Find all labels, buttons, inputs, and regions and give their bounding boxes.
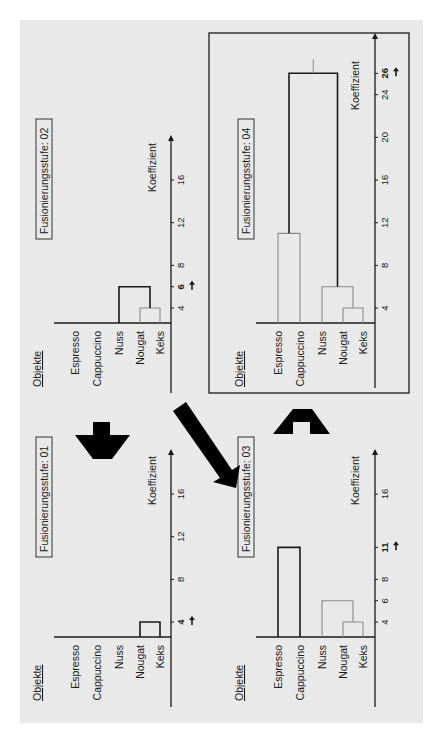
object-label: Nuss [316,645,328,669]
tick-label: 12 [175,531,186,542]
object-label: Cappuccino [91,645,103,701]
tick-label: 8 [175,263,186,268]
tick-label: 4 [175,619,186,625]
objects-header: Objekte [31,351,43,387]
tick-label: 26 [379,68,390,79]
object-label: Cappuccino [294,645,306,701]
object-label: Nougat [337,331,349,365]
object-label: Espresso [69,645,81,689]
step-title: Fusionierungsstufe: 01 [38,446,50,552]
tick-label: 11 [379,542,390,553]
object-label: Espresso [272,645,284,689]
step-title: Fusionierungsstufe: 03 [240,446,252,552]
object-label: Nuss [113,331,125,355]
tick-label: 8 [175,577,186,582]
tick-label: 12 [379,217,390,228]
tick-label: 16 [175,489,186,500]
object-label: Nuss [113,645,125,669]
object-label: Cappuccino [91,331,103,387]
object-label: Nuss [316,331,328,355]
tick-label: 24 [379,89,390,100]
object-label: Keks [154,331,166,354]
object-label: Keks [154,645,166,668]
tick-label: 4 [175,305,186,310]
step-title: Fusionierungsstufe: 02 [38,128,50,234]
step-title-box: Fusionierungsstufe: 03 [238,437,254,557]
tick-label: 16 [379,175,390,186]
step-title: Fusionierungsstufe: 04 [240,128,252,234]
object-label: Nougat [337,645,349,679]
objects-header: Objekte [31,665,43,701]
object-label: Espresso [69,331,81,375]
object-label: Keks [357,331,369,354]
object-label: Nougat [134,331,146,365]
step-title-box: Fusionierungsstufe: 04 [238,119,254,239]
tick-label: 20 [379,132,390,143]
tick-label: 16 [175,175,186,186]
axis-label: Koeffizient [146,456,158,505]
tick-label: 6 [379,598,390,603]
dendrogram-figure: Fusionierungsstufe: 02ObjekteEspressoCap… [0,0,439,746]
axis-label: Koeffizient [146,143,158,192]
tick-label: 4 [379,619,390,624]
axis-label: Koeffizient [349,456,361,505]
step-title-box: Fusionierungsstufe: 02 [36,119,52,239]
step-title-box: Fusionierungsstufe: 01 [36,437,52,557]
objects-header: Objekte [233,665,245,701]
object-label: Espresso [272,331,284,375]
object-label: Nougat [134,645,146,679]
tick-label: 4 [379,305,390,310]
object-label: Cappuccino [294,331,306,387]
tick-label: 8 [379,577,390,582]
tick-label: 8 [379,263,390,268]
objects-header: Objekte [233,351,245,387]
tick-label: 12 [175,217,186,228]
object-label: Keks [357,645,369,668]
tick-label: 6 [175,284,186,289]
axis-label: Koeffizient [349,61,361,110]
tick-label: 16 [379,489,390,500]
